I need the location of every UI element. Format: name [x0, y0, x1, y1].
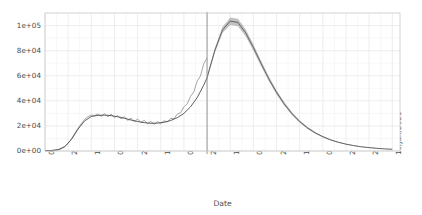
plot-background: [45, 13, 400, 151]
chart-figure: New cases per day 0e+002e+044e+046e+048e…: [0, 0, 422, 215]
plot-panel: [0, 0, 422, 215]
x-axis-title: Date: [45, 199, 400, 208]
